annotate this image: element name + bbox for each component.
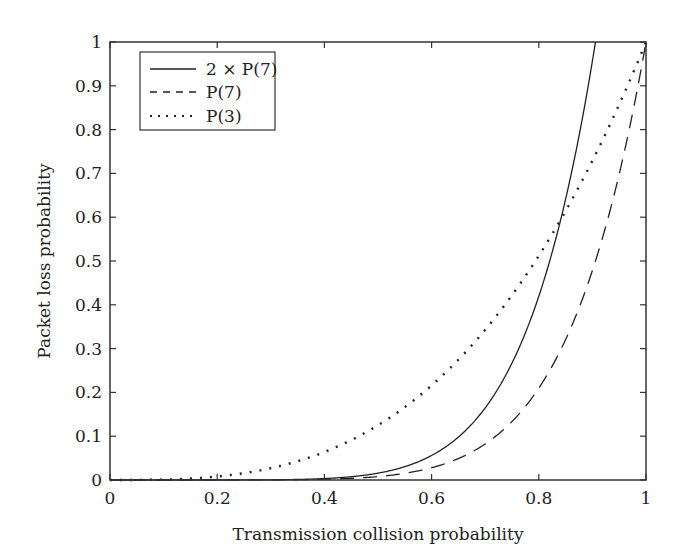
- x-tick-label: 0.6: [418, 488, 445, 508]
- y-tick-label: 0: [91, 470, 102, 490]
- y-tick-labels: 00.10.20.30.40.50.60.70.80.91: [75, 32, 102, 490]
- x-tick-label: 1: [641, 488, 652, 508]
- y-tick-label: 0.9: [75, 76, 102, 96]
- legend-label-p7: P(7): [206, 82, 242, 102]
- line-chart: 00.20.40.60.81 00.10.20.30.40.50.60.70.8…: [0, 0, 684, 559]
- y-tick-label: 0.6: [75, 207, 102, 227]
- x-axis-label: Transmission collision probability: [232, 524, 523, 544]
- legend: 2 × P(7) P(7) P(3): [140, 52, 277, 130]
- x-tick-labels: 00.20.40.60.81: [105, 488, 652, 508]
- legend-label-p3: P(3): [206, 106, 242, 126]
- x-tick-label: 0.2: [204, 488, 231, 508]
- y-axis-label: Packet loss probability: [34, 163, 54, 359]
- y-tick-label: 1: [91, 32, 102, 52]
- x-tick-label: 0: [105, 488, 116, 508]
- y-tick-label: 0.3: [75, 339, 102, 359]
- x-tick-label: 0.8: [525, 488, 552, 508]
- y-tick-label: 0.8: [75, 120, 102, 140]
- y-tick-label: 0.2: [75, 382, 102, 402]
- x-tick-label: 0.4: [311, 488, 338, 508]
- y-tick-label: 0.1: [75, 426, 102, 446]
- y-tick-label: 0.7: [75, 163, 102, 183]
- y-tick-label: 0.5: [75, 251, 102, 271]
- legend-label-2xp7: 2 × P(7): [206, 59, 277, 79]
- y-tick-label: 0.4: [75, 295, 102, 315]
